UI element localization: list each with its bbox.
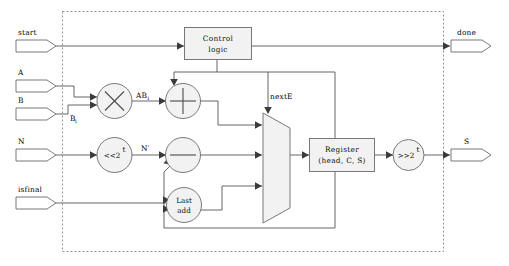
control-logic-line2: logic (208, 45, 228, 54)
block-control-logic[interactable]: Control logic (185, 28, 252, 60)
arrow-s-in (443, 151, 450, 159)
output-port-done[interactable] (451, 40, 491, 52)
arrow-register-in (302, 151, 309, 159)
block-subtractor[interactable] (166, 138, 201, 173)
shift-right-exponent: t (417, 145, 420, 154)
block-shift-left[interactable]: <<2 t (97, 138, 132, 173)
shift-left-exponent: t (123, 145, 126, 154)
wire-label-ab-i: AB (135, 91, 147, 100)
wire-label-n-prime: N′ (141, 144, 150, 153)
register-line1: Register (325, 145, 359, 154)
block-mux[interactable] (263, 113, 290, 223)
arrow-control-in (177, 42, 184, 50)
arrow-adder-in-left (159, 97, 166, 105)
output-ports[interactable]: done S (451, 28, 491, 161)
input-port-b-label: B (18, 96, 24, 105)
block-last-add[interactable]: Last add (167, 188, 202, 223)
register-line2: (head, C, S) (318, 156, 366, 165)
module-boundary (63, 12, 444, 252)
shift-left-label: <<2 (104, 151, 121, 160)
arrow-mux-in-2 (255, 151, 262, 159)
input-port-n[interactable] (16, 149, 56, 161)
arrow-shiftleft-in (90, 151, 97, 159)
output-port-s[interactable] (451, 149, 491, 161)
arrow-mult-in-b (90, 101, 97, 109)
diagram-svg: start A B N isfinal done S Control logic (0, 0, 509, 266)
block-multiplier[interactable] (97, 84, 132, 119)
wire-label-b-i-sub: i (75, 118, 77, 124)
input-port-start[interactable] (16, 40, 56, 52)
last-add-circle[interactable] (167, 188, 202, 223)
control-logic-line1: Control (203, 34, 234, 43)
input-ports[interactable]: start A B N isfinal (16, 28, 56, 209)
arrow-mult-in-a (90, 93, 97, 101)
arrow-subtractor-in-left (159, 151, 166, 159)
arrow-done-in (443, 42, 450, 50)
block-shift-right[interactable]: >>2 t (393, 140, 424, 171)
last-add-line1: Last (176, 196, 192, 205)
control-logic-box[interactable] (185, 28, 252, 60)
wire-label-ab-i-sub: i (148, 95, 150, 101)
arrow-mux-in-1 (255, 121, 262, 129)
wire-feedback-to-subtractor (164, 166, 170, 172)
shift-right-label: >>2 (398, 151, 415, 160)
last-add-line2: add (177, 206, 191, 215)
input-port-n-label: N (18, 137, 25, 146)
block-adder[interactable] (166, 84, 201, 119)
wire-adder-to-mux (200, 101, 262, 125)
input-port-isfinal-label: isfinal (18, 185, 43, 194)
output-port-done-label: done (457, 28, 476, 37)
mux-trapezoid[interactable] (263, 113, 290, 223)
input-port-a[interactable] (16, 80, 56, 92)
input-port-isfinal[interactable] (16, 197, 56, 209)
block-register[interactable]: Register (head, C, S) (310, 139, 375, 172)
register-box[interactable] (310, 139, 375, 172)
arrow-mux-in-3 (255, 182, 262, 190)
input-port-b[interactable] (16, 108, 56, 120)
wire-label-nexte: nextE (270, 92, 293, 101)
wire-group (56, 46, 450, 228)
input-port-a-label: A (17, 68, 24, 77)
input-port-start-label: start (18, 28, 37, 37)
diagram-canvas: start A B N isfinal done S Control logic (0, 0, 509, 266)
wire-lastadd-to-mux (201, 186, 262, 210)
output-port-s-label: S (464, 137, 469, 146)
arrow-mux-select-in (264, 107, 272, 114)
arrow-shiftright-in (386, 151, 393, 159)
